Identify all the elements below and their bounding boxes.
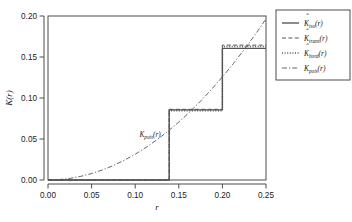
x-tick-label: 0.20 — [214, 191, 230, 200]
y-axis: 0.000.050.100.150.20K(r) — [4, 12, 44, 185]
x-tick-label: 0.25 — [258, 191, 274, 200]
chart-root: 0.000.050.100.150.200.25r0.000.050.100.1… — [0, 0, 352, 222]
series-line-K_pois — [48, 19, 266, 180]
x-tick-label: 0.15 — [171, 191, 187, 200]
plot-frame — [48, 16, 266, 180]
series-line-K_trans — [48, 45, 266, 180]
y-axis-title: K(r) — [4, 90, 14, 107]
annotation-group: Kpois(r) — [139, 131, 162, 140]
k-function-chart: 0.000.050.100.150.200.25r0.000.050.100.1… — [0, 0, 352, 222]
series-line-K_iso — [48, 48, 266, 180]
x-axis-title: r — [155, 202, 159, 212]
y-axis-title-text: K(r) — [4, 90, 14, 107]
y-tick-label: 0.10 — [21, 94, 37, 103]
series-line-K_bord — [48, 47, 266, 180]
y-tick-label: 0.15 — [21, 53, 37, 62]
x-tick-label: 0.05 — [84, 191, 100, 200]
legend: Kiso(r)ˆKtrans(r)ˆKbord(r)ˆKpois(r) — [276, 10, 350, 80]
y-tick-label: 0.05 — [21, 135, 37, 144]
y-tick-label: 0.00 — [21, 176, 37, 185]
y-tick-label: 0.20 — [21, 12, 37, 21]
annotation-k-pois: Kpois(r) — [139, 131, 162, 140]
x-axis: 0.000.050.100.150.200.25r — [40, 184, 274, 212]
x-tick-label: 0.10 — [127, 191, 143, 200]
series-group — [48, 19, 266, 180]
x-tick-label: 0.00 — [40, 191, 56, 200]
